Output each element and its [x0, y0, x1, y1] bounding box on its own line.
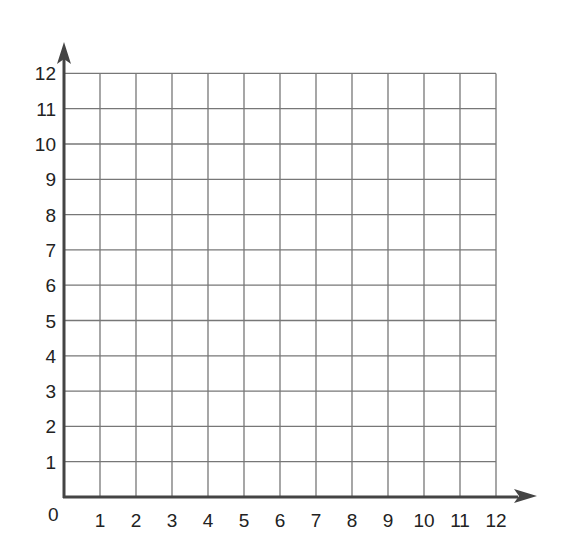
x-tick-label: 3 [167, 510, 178, 531]
x-tick-label: 10 [413, 510, 434, 531]
y-tick-label: 12 [35, 63, 56, 84]
x-tick-label: 9 [383, 510, 394, 531]
x-tick-label: 11 [450, 510, 470, 531]
y-tick-label: 9 [45, 169, 56, 190]
y-tick-label: 3 [45, 381, 56, 402]
axes [57, 42, 537, 503]
y-tick-labels: 123456789101112 [35, 63, 57, 472]
x-tick-label: 12 [485, 510, 506, 531]
y-tick-label: 7 [45, 240, 56, 261]
x-tick-label: 4 [203, 510, 214, 531]
y-tick-label: 1 [45, 452, 56, 473]
x-tick-label: 7 [311, 510, 322, 531]
x-tick-label: 2 [131, 510, 142, 531]
x-tick-label: 8 [347, 510, 358, 531]
y-tick-label: 5 [45, 311, 56, 332]
y-tick-label: 6 [45, 275, 56, 296]
x-tick-labels: 123456789101112 [95, 510, 507, 531]
x-tick-label: 5 [239, 510, 250, 531]
grid-lines [64, 73, 496, 497]
y-tick-label: 2 [45, 416, 56, 437]
y-tick-label: 10 [35, 134, 56, 155]
y-tick-label: 11 [36, 99, 56, 120]
coordinate-grid-chart: 123456789101112 123456789101112 0 [0, 0, 563, 548]
y-tick-label: 4 [45, 346, 56, 367]
origin-label: 0 [48, 504, 59, 525]
x-tick-label: 6 [275, 510, 286, 531]
x-tick-label: 1 [95, 510, 106, 531]
y-tick-label: 8 [45, 205, 56, 226]
